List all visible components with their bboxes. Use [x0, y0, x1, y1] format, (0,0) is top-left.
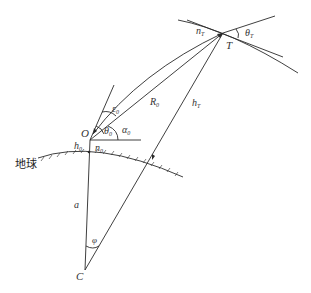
- label-thetaT: θT: [245, 27, 254, 39]
- label-n0: n0: [95, 142, 103, 154]
- earth-hatching: [41, 149, 178, 176]
- label-T: T: [226, 39, 233, 51]
- line-hT: [85, 33, 223, 270]
- label-alpha0: α0: [122, 124, 130, 136]
- tangent-line-at-T: [187, 20, 283, 57]
- label-hT: hT: [192, 97, 201, 109]
- earth-surface-arc: [38, 151, 183, 177]
- label-R0: R0: [149, 96, 159, 108]
- arrow-hT-earth: [152, 154, 155, 160]
- label-C: C: [76, 270, 84, 282]
- line-a: [85, 140, 90, 270]
- label-phi: φ: [92, 235, 97, 245]
- arc-phi: [86, 246, 99, 248]
- label-a: a: [74, 199, 79, 210]
- arc-thetaT: [236, 29, 239, 38]
- diagram-canvas: nT θT T R0 hT ε0 O θ0 α0 h0 n0 地球 a φ C: [0, 0, 311, 293]
- line-R0: [90, 33, 223, 140]
- label-O: O: [81, 127, 89, 139]
- label-earth: 地球: [15, 157, 37, 171]
- point-n0: [88, 151, 91, 154]
- label-h0: h0: [74, 140, 82, 152]
